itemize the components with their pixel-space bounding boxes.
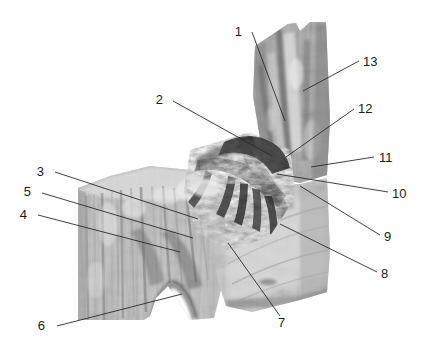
label-10: 10 xyxy=(392,186,406,201)
label-8: 8 xyxy=(381,266,388,281)
label-7: 7 xyxy=(278,315,285,330)
label-6: 6 xyxy=(38,318,45,333)
label-3: 3 xyxy=(37,164,44,179)
label-12: 12 xyxy=(358,101,372,116)
label-11: 11 xyxy=(379,150,393,165)
label-5: 5 xyxy=(24,184,31,199)
label-13: 13 xyxy=(363,54,377,69)
label-9: 9 xyxy=(384,229,391,244)
label-4: 4 xyxy=(20,207,27,222)
figure-root: 1 2 3 4 5 6 7 8 9 10 11 12 13 xyxy=(0,0,426,355)
label-1: 1 xyxy=(235,24,242,39)
anatomical-figure: 1 2 3 4 5 6 7 8 9 10 11 12 13 xyxy=(0,0,426,355)
label-2: 2 xyxy=(156,92,163,107)
